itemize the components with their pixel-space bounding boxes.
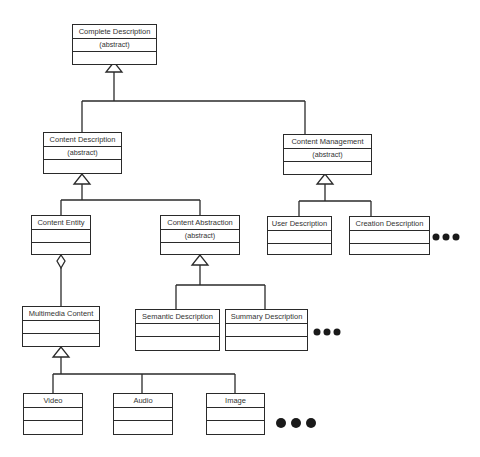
class-name: Creation Description [350, 217, 429, 231]
class-operations [226, 337, 307, 350]
class-complete-description: Complete Description (abstract) [72, 24, 157, 65]
class-name: Image [207, 394, 264, 408]
class-content-abstraction: Content Abstraction (abstract) [160, 215, 240, 255]
class-image: Image [206, 393, 265, 435]
class-creation-description: Creation Description [349, 216, 430, 255]
class-semantic-description: Semantic Description [135, 309, 220, 351]
class-operations [207, 421, 264, 434]
generalization-arrow-icon [74, 174, 90, 184]
uml-diagram: Complete Description (abstract) Content … [0, 0, 480, 457]
class-operations [24, 421, 82, 434]
class-attributes [23, 321, 99, 334]
class-stereotype: (abstract) [73, 39, 156, 52]
class-attributes [136, 324, 219, 337]
class-attributes [268, 231, 331, 244]
class-operations [161, 243, 239, 254]
class-video: Video [23, 393, 83, 435]
class-name: Summary Description [226, 310, 307, 324]
class-audio: Audio [113, 393, 173, 435]
class-content-description: Content Description (abstract) [43, 132, 122, 174]
generalization-arrow-icon [53, 347, 69, 357]
generalization-arrow-icon [192, 255, 208, 265]
class-operations [114, 421, 172, 434]
generalization-arrow-icon [317, 174, 333, 184]
class-name: User Description [268, 217, 331, 231]
class-name: Content Description [44, 133, 121, 147]
aggregation-diamond-icon [57, 255, 65, 268]
class-operations [268, 244, 331, 254]
class-operations [284, 162, 371, 174]
class-summary-description: Summary Description [225, 309, 308, 351]
class-attributes [24, 408, 82, 421]
class-name: Multimedia Content [23, 307, 99, 321]
class-attributes [114, 408, 172, 421]
class-operations [73, 52, 156, 64]
class-stereotype: (abstract) [161, 230, 239, 243]
class-operations [136, 337, 219, 350]
class-stereotype: (abstract) [44, 147, 121, 160]
class-name: Complete Description [73, 25, 156, 39]
class-name: Content Management [284, 135, 371, 149]
class-name: Audio [114, 394, 172, 408]
class-name: Content Entity [32, 216, 90, 230]
class-stereotype: (abstract) [284, 149, 371, 162]
class-operations [350, 244, 429, 254]
class-multimedia-content: Multimedia Content [22, 306, 100, 347]
class-attributes [32, 230, 90, 243]
class-attributes [350, 231, 429, 244]
class-content-management: Content Management (abstract) [283, 134, 372, 175]
class-operations [32, 243, 90, 254]
class-attributes [207, 408, 264, 421]
class-operations [44, 160, 121, 173]
class-attributes [226, 324, 307, 337]
class-user-description: User Description [267, 216, 332, 255]
class-name: Content Abstraction [161, 216, 239, 230]
class-content-entity: Content Entity [31, 215, 91, 255]
class-name: Video [24, 394, 82, 408]
class-name: Semantic Description [136, 310, 219, 324]
class-operations [23, 334, 99, 346]
